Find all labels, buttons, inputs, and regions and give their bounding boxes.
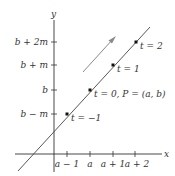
parametric-line: [18, 27, 150, 171]
x-tick-label: a − 1: [55, 159, 79, 169]
x-tick-label: a: [87, 159, 92, 169]
point-t-1: [112, 64, 115, 67]
y-tick-label: b + m: [20, 60, 48, 70]
y-axis-label: y: [50, 9, 57, 19]
x-tick-label: a + 1: [101, 159, 125, 169]
point-t-minus-1: [66, 113, 69, 116]
point-label-t-1: t = 1: [117, 64, 140, 74]
y-tick-label: b + 2m: [15, 37, 48, 47]
parametric-line-diagram: y x b + 2m b + m b b − m a − 1 a a + 1 a…: [0, 0, 175, 176]
point-label-t-0: t = 0, P = (a, b): [94, 89, 166, 99]
point-label-t-minus-1: t = −1: [71, 113, 101, 123]
y-tick-label: b: [42, 85, 48, 95]
y-tick-label: b − m: [20, 109, 48, 119]
x-tick-label: a + 2: [125, 159, 150, 169]
point-t-2: [135, 41, 138, 44]
point-t-0: [89, 89, 92, 92]
point-label-t-2: t = 2: [140, 41, 163, 51]
direction-arrow-icon: [83, 36, 116, 72]
x-axis-label: x: [164, 149, 169, 159]
